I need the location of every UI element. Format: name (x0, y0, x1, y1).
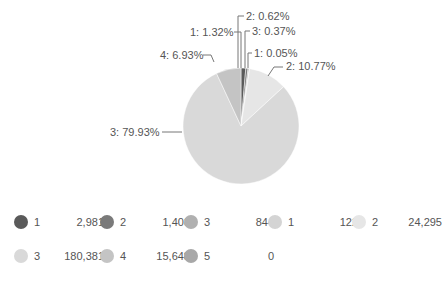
legend-swatch-icon (184, 249, 198, 263)
legend-item[interactable]: 1 122 (268, 212, 358, 232)
legend-name: 5 (204, 250, 224, 262)
pie-chart: 1: 1.32% 2: 0.62% 3: 0.37% 1: 0.05% 2: 1… (0, 0, 446, 200)
slice-label-1b: 1: 0.05% (254, 47, 298, 59)
legend-swatch-icon (14, 215, 28, 229)
legend-swatch-icon (352, 215, 366, 229)
legend-swatch-icon (100, 249, 114, 263)
legend-name: 2 (372, 216, 392, 228)
legend-item[interactable]: 2 1,408 (100, 212, 190, 232)
legend-value: 122 (308, 216, 358, 228)
legend-name: 3 (204, 216, 224, 228)
slice-label-2a: 2: 0.62% (246, 10, 290, 22)
legend-name: 1 (34, 216, 54, 228)
legend-name: 2 (120, 216, 140, 228)
legend-name: 4 (120, 250, 140, 262)
legend-value: 2,981 (54, 216, 104, 228)
slice-label-2b: 2: 10.77% (286, 60, 336, 72)
legend-name: 3 (34, 250, 54, 262)
slice-label-1a: 1: 1.32% (190, 26, 234, 38)
slice-label-4b: 4: 6.93% (160, 49, 204, 61)
legend-value: 0 (224, 250, 274, 262)
legend-swatch-icon (14, 249, 28, 263)
legend-item[interactable]: 2 24,295 (352, 212, 442, 232)
legend-item[interactable]: 3 180,381 (14, 246, 104, 266)
legend-swatch-icon (268, 215, 282, 229)
legend-value: 844 (224, 216, 274, 228)
legend-swatch-icon (100, 215, 114, 229)
legend-swatch-icon (184, 215, 198, 229)
slice-label-3b: 3: 79.93% (110, 126, 160, 138)
legend-value: 24,295 (392, 216, 442, 228)
pie-slices (183, 68, 299, 184)
legend-item[interactable]: 1 2,981 (14, 212, 104, 232)
legend-value: 15,648 (140, 250, 190, 262)
legend-name: 1 (288, 216, 308, 228)
legend-value: 1,408 (140, 216, 190, 228)
legend-item[interactable]: 3 844 (184, 212, 274, 232)
legend-value: 180,381 (54, 250, 104, 262)
legend-item[interactable]: 4 15,648 (100, 246, 190, 266)
slice-label-3a: 3: 0.37% (252, 25, 296, 37)
legend-item[interactable]: 5 0 (184, 246, 274, 266)
